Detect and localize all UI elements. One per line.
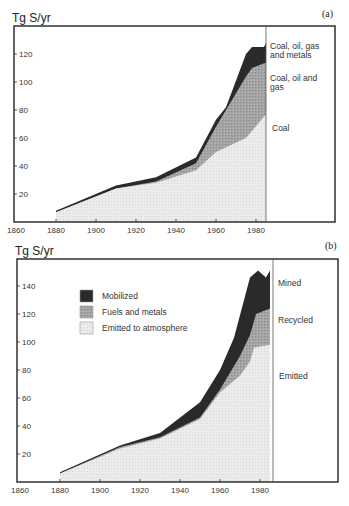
y-tick-label: 40 bbox=[22, 422, 31, 431]
y-tick-label: 40 bbox=[19, 162, 28, 171]
legend-swatch bbox=[80, 290, 93, 302]
x-tick-label: 1940 bbox=[167, 226, 185, 235]
x-tick-label: 1940 bbox=[171, 486, 189, 495]
y-tick-label: 140 bbox=[22, 282, 36, 291]
annotation: Mined bbox=[278, 278, 301, 288]
legend-swatch bbox=[80, 322, 93, 334]
x-tick-label: 1960 bbox=[207, 226, 225, 235]
annotation: gas bbox=[270, 82, 284, 92]
y-tick-label: 80 bbox=[19, 106, 28, 115]
y-tick-label: 80 bbox=[22, 366, 31, 375]
legend: MobilizedFuels and metalsEmitted to atmo… bbox=[80, 290, 188, 334]
y-axis-label: Tg S/yr bbox=[12, 11, 51, 25]
y-tick-label: 60 bbox=[22, 394, 31, 403]
x-tick-label: 1880 bbox=[47, 226, 65, 235]
legend-label: Fuels and metals bbox=[102, 307, 167, 317]
panel-label: (a) bbox=[322, 8, 333, 20]
x-tick-label: 1880 bbox=[51, 486, 69, 495]
y-tick-label: 100 bbox=[19, 78, 33, 87]
annotation: Coal bbox=[272, 123, 290, 133]
y-axis-label: Tg S/yr bbox=[15, 244, 54, 258]
y-tick-label: 120 bbox=[19, 50, 33, 59]
y-tick-label: 60 bbox=[19, 134, 28, 143]
x-tick-label: 1980 bbox=[247, 226, 265, 235]
y-tick-label: 100 bbox=[22, 338, 36, 347]
chart-panel-a: 2040608010012018601880190019201940196019… bbox=[7, 8, 335, 235]
x-tick-label: 1980 bbox=[251, 486, 269, 495]
legend-swatch bbox=[80, 306, 93, 318]
legend-label: Emitted to atmosphere bbox=[102, 323, 188, 333]
y-tick-label: 20 bbox=[19, 190, 28, 199]
x-tick-label: 1920 bbox=[127, 226, 145, 235]
sulfur-flux-charts: 2040608010012018601880190019201940196019… bbox=[0, 0, 349, 506]
x-tick-label: 1900 bbox=[87, 226, 105, 235]
panel-label: (b) bbox=[325, 240, 337, 252]
y-tick-label: 20 bbox=[22, 450, 31, 459]
chart-panel-b: 2040608010012014018601880190019201940196… bbox=[11, 240, 338, 495]
annotation: Emitted bbox=[279, 371, 308, 381]
annotation: and metals bbox=[270, 50, 312, 60]
x-tick-label: 1920 bbox=[131, 486, 149, 495]
x-tick-label: 1860 bbox=[11, 486, 29, 495]
annotation: Recycled bbox=[278, 315, 313, 325]
legend-label: Mobilized bbox=[102, 291, 138, 301]
x-tick-label: 1960 bbox=[211, 486, 229, 495]
x-tick-label: 1900 bbox=[91, 486, 109, 495]
x-tick-label: 1860 bbox=[7, 226, 25, 235]
y-tick-label: 120 bbox=[22, 310, 36, 319]
